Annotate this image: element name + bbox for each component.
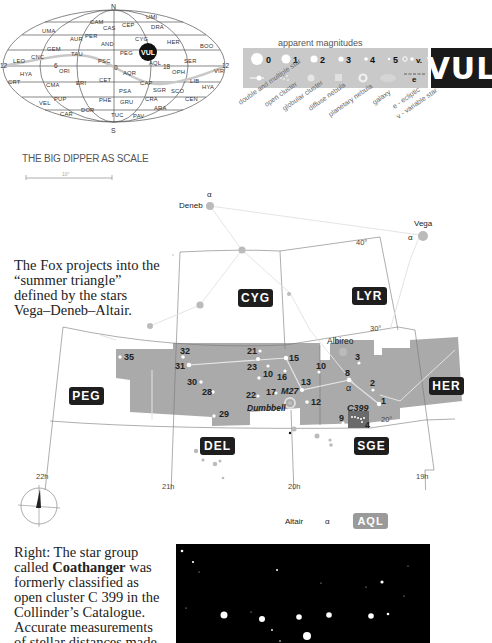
ra-21h: 21h	[162, 482, 175, 490]
allsky-label-gem: GEM	[47, 46, 61, 52]
compass-icon	[18, 485, 60, 527]
allsky-label-car: CAR	[60, 111, 73, 117]
allsky-label-sgr: SGR	[153, 87, 166, 93]
allsky-label-hya: HYA	[20, 71, 32, 77]
allsky-label-ser: SER	[184, 58, 197, 64]
dec-40: 40°	[356, 238, 367, 247]
allsky-label-psc: PSC	[98, 58, 111, 64]
c399-box	[348, 411, 369, 428]
allsky-label-dor: DOR	[81, 107, 94, 113]
allsky-label-pav: PAV	[133, 113, 144, 119]
allsky-label-aur: AUR	[70, 36, 83, 42]
aql-badge: AQL	[353, 513, 388, 529]
allsky-label-cas: CAS	[103, 25, 116, 31]
allsky-label-and: AND	[101, 41, 114, 47]
allsky-map: UMICAMCASCEPDRAUMAAURPERCYGHERBOOANDGEMT…	[0, 0, 240, 140]
allsky-label-cet: CET	[99, 77, 111, 83]
ra-label-18: 18	[163, 63, 171, 70]
allsky-label-dra: DRA	[151, 24, 164, 30]
allsky-label-per: PER	[85, 33, 98, 39]
sge-badge: SGE	[354, 437, 389, 455]
allsky-label-ara: ARA	[154, 105, 167, 111]
star-chart: 40° 30° 20° 10° 22h 21h 20h 19h	[0, 190, 492, 490]
dec-30: 30°	[370, 324, 381, 333]
ra-20h: 20h	[288, 482, 301, 490]
allsky-label-cnc: CNC	[31, 54, 44, 60]
allsky-label-ori: ORI	[59, 68, 70, 74]
ra-label-12-left: 12	[0, 62, 8, 69]
ra-19h: 19h	[416, 472, 429, 481]
legend-caption-galaxy: galaxy	[371, 88, 392, 105]
allsky-label-tau: TAU	[71, 51, 83, 57]
peg-badge: PEG	[69, 387, 104, 405]
legend-ext-symbols: v. e	[401, 48, 428, 88]
south-label: S	[111, 127, 116, 134]
cyg-badge: CYG	[238, 289, 273, 307]
del-badge: DEL	[200, 437, 235, 455]
caption-summer-triangle: The Fox projects into the “summer triang…	[14, 258, 164, 318]
allsky-label-sco: SCO	[171, 88, 184, 94]
mag-2-icon	[311, 56, 318, 63]
allsky-label-cma: CMA	[46, 82, 59, 88]
allsky-label-aql: AQL	[149, 60, 162, 66]
svg-text:3: 3	[346, 55, 351, 65]
variable-star-icon	[403, 57, 407, 61]
svg-text:e: e	[412, 75, 417, 84]
caption-coathanger: Right: The star group called Coathanger …	[14, 545, 160, 643]
svg-text:4: 4	[370, 55, 375, 65]
allsky-label-phe: PHE	[99, 97, 112, 103]
mag-4-icon	[364, 57, 368, 61]
mag-0-icon	[251, 53, 263, 65]
allsky-label-cen: CEN	[185, 96, 198, 102]
double-star-icon	[250, 76, 264, 81]
altair-label: Altair	[285, 517, 303, 526]
ra-label-6: 6	[54, 62, 58, 69]
allsky-label-gru: GRU	[120, 99, 133, 105]
globular-cluster-icon	[308, 75, 315, 82]
magnitude-row: 0 1 2 3 4 5	[251, 53, 398, 65]
allsky-label-psa: PSA	[119, 88, 131, 94]
constellation-badge: VUL	[431, 48, 492, 88]
scale-bar: 10°	[22, 170, 117, 182]
allsky-label-peg: PEG	[120, 50, 133, 56]
svg-text:v.: v.	[416, 56, 422, 65]
svg-text:0: 0	[266, 55, 271, 65]
svg-text:10°: 10°	[62, 171, 70, 177]
altair-alpha: α	[325, 517, 330, 526]
albireo-star	[339, 348, 347, 356]
allsky-label-leo: LEO	[13, 58, 25, 64]
north-label: N	[111, 3, 116, 10]
planetary-nebula-icon	[360, 75, 367, 82]
galaxy-icon	[380, 74, 396, 82]
allsky-label-hya: HYA	[202, 84, 214, 90]
coathanger-bold: Coathanger	[52, 559, 125, 575]
allsky-label-her: HER	[167, 39, 180, 45]
allsky-label-oph: OPH	[172, 69, 185, 75]
allsky-label-pup: PUP	[54, 96, 67, 102]
allsky-label-cyg: CYG	[135, 36, 148, 42]
allsky-label-boo: BOO	[200, 43, 214, 49]
scale-title: THE BIG DIPPER AS SCALE	[22, 153, 149, 164]
diffuse-nebula-icon	[335, 74, 342, 81]
mag-3-icon	[338, 56, 343, 61]
allsky-label-eri: ERI	[76, 80, 86, 86]
legend-title: apparent magnitudes	[278, 38, 363, 48]
allsky-label-cra: CRA	[145, 96, 158, 102]
allsky-label-crt: CRT	[8, 79, 21, 85]
allsky-label-cep: CEP	[122, 22, 135, 28]
legend-captions: double and multiple star open cluster gl…	[243, 88, 433, 118]
her-badge: HER	[429, 377, 464, 395]
svg-text:2: 2	[320, 55, 325, 65]
allsky-label-uma: UMA	[42, 28, 55, 34]
svg-text:VUL: VUL	[141, 49, 156, 56]
dec-20: 20°	[381, 415, 392, 424]
ra-label-0: 0	[114, 64, 118, 71]
svg-text:5: 5	[393, 55, 398, 65]
ra-22h: 22h	[36, 472, 49, 481]
ra-label-12-right: 12	[222, 62, 230, 69]
allsky-label-aqr: AQR	[123, 70, 136, 76]
mag-5-icon	[388, 58, 390, 60]
allsky-label-lib: LIB	[190, 78, 199, 84]
vul-region	[116, 337, 462, 426]
allsky-label-vel: VEL	[39, 100, 51, 106]
